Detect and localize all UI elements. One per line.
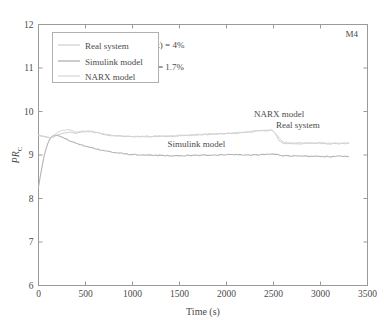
legend-box: Real system Simulink model NARX model [53, 33, 159, 83]
legend-label-simulink-model: Simulink model [85, 57, 143, 67]
chart-figure: 05001000150020002500300035006789101112 R… [0, 0, 384, 324]
y-tick-label: 9 [29, 150, 34, 160]
x-tick-label: 1000 [123, 289, 142, 299]
line-chart: 05001000150020002500300035006789101112 R… [0, 0, 384, 324]
y-tick-label: 6 [29, 281, 34, 291]
y-tick-label: 11 [24, 63, 33, 73]
x-tick-label: 0 [36, 289, 41, 299]
x-tick-label: 1500 [170, 289, 189, 299]
corner-label-m4: M4 [345, 29, 358, 39]
x-tick-label: 2000 [217, 289, 236, 299]
y-tick-label: 8 [29, 194, 34, 204]
legend-label-real-system: Real system [85, 41, 129, 51]
annotation-narx-model: NARX model [254, 109, 305, 119]
y-tick-label: 7 [29, 237, 34, 247]
annotation-real-system: Real system [276, 120, 320, 130]
x-axis-title: Time (s) [186, 306, 220, 318]
y-tick-label: 12 [24, 20, 34, 30]
x-tick-label: 500 [78, 289, 93, 299]
x-tick-label: 3000 [311, 289, 330, 299]
y-axis-title-subscript: C [16, 146, 24, 151]
y-tick-label: 10 [24, 107, 34, 117]
x-tick-label: 3500 [358, 289, 377, 299]
y-axis-title-main: PR [10, 151, 21, 164]
x-tick-label: 2500 [264, 289, 283, 299]
annotation-simulink-model: Simulink model [168, 139, 226, 149]
legend-label-narx-model: NARX model [85, 72, 136, 82]
